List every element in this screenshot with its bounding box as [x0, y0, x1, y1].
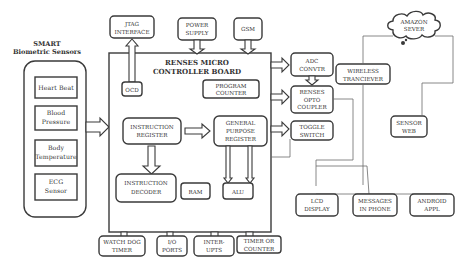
- arrow-right-icon: [271, 122, 289, 136]
- instruction-register-box: [123, 118, 181, 144]
- sensor-blood-pressure-label-2: Pressure: [42, 118, 71, 125]
- io-label-2: PORTS: [162, 247, 182, 253]
- arrow-right-icon: [271, 90, 289, 104]
- toggle-label-1: TOGGLE: [299, 124, 324, 130]
- sensor-body-temperature-label-2: Temperature: [35, 153, 77, 161]
- connector-line: [316, 166, 369, 194]
- alu-label: ALU: [231, 189, 244, 195]
- watchdog-label-1: WATCH DOG: [103, 239, 141, 245]
- instruction-decoder-label-1: INSTRUCTION: [124, 180, 167, 186]
- interrupts-label-2: UPTS: [206, 247, 222, 253]
- cloud-label-1: AMAZON: [399, 19, 427, 25]
- connector-line: [271, 139, 290, 157]
- wireless-label-2: TRANCIEVER: [343, 76, 384, 82]
- arrow-down-icon: [190, 40, 204, 54]
- cloud-tail-dot: [405, 39, 407, 41]
- arrow-right-icon: [86, 118, 109, 136]
- messages-label-1: MESSAGES: [358, 198, 392, 204]
- messages-label-2: IN PHONE: [359, 206, 390, 212]
- board-title-line1: RENSES MICRO: [165, 58, 229, 67]
- io-label-1: I/O: [168, 239, 177, 245]
- board-title-line2: CONTROLLER BOARD: [153, 67, 241, 76]
- interrupts-label-1: INTER-: [203, 239, 224, 245]
- cloud-label-2: SEVER: [404, 26, 425, 32]
- gpr-label-3: REGISTER: [225, 136, 257, 142]
- connector-line: [422, 36, 453, 116]
- sensors-title-line1: SMART: [33, 40, 61, 48]
- arrow-right-icon: [271, 58, 289, 72]
- toggle-label-2: SWITCH: [300, 132, 325, 138]
- sensor-blood-pressure-label-1: Blood: [47, 109, 65, 116]
- biometric-sensors-group: SMART Biometric Sensors Heart Beat Blood…: [13, 40, 86, 217]
- lcd-label-2: DISPLAY: [304, 206, 330, 212]
- sensor-ecg-label-1: ECG: [49, 178, 64, 185]
- watchdog-label-2: TIMER: [112, 247, 133, 253]
- ocd-label: OCD: [125, 87, 139, 93]
- opto-label-3: COUPLER: [297, 104, 327, 110]
- sensor-web-label-1: SENSOR: [396, 120, 422, 126]
- instruction-decoder-box: [116, 174, 176, 202]
- instruction-register-label-1: INSTRUCTION: [130, 124, 173, 130]
- gsm-label: GSM: [241, 26, 255, 32]
- power-label-2: SUPPLY: [185, 30, 208, 36]
- connector-line: [363, 36, 393, 64]
- amazon-server-cloud: AMAZON SEVER: [388, 11, 441, 45]
- sensor-body-temperature-label-1: Body: [48, 144, 65, 152]
- opto-label-1: RENSES: [300, 89, 325, 95]
- cloud-tail-dot: [401, 41, 405, 45]
- sensor-heart-beat-label: Heart Beat: [38, 84, 74, 91]
- program-counter-label-2: COUNTER: [216, 90, 247, 96]
- ram-label: RAM: [189, 189, 203, 195]
- android-label-1: ANDROID: [417, 198, 447, 204]
- instruction-register-label-2: REGISTER: [137, 132, 169, 138]
- lcd-label-1: LCD: [311, 198, 324, 204]
- power-label-1: POWER: [186, 22, 209, 28]
- sensor-ecg-label-2: Sensor: [45, 187, 67, 194]
- timer-label-2: COUNTER: [244, 246, 275, 252]
- block-diagram: SMART Biometric Sensors Heart Beat Blood…: [0, 0, 476, 269]
- sensors-title-line2: Biometric Sensors: [13, 48, 81, 56]
- sensor-web-label-2: WEB: [402, 128, 416, 134]
- gpr-label-2: PURPOSE: [226, 128, 255, 134]
- opto-label-2: OPTO: [304, 97, 321, 103]
- android-label-2: APPL: [423, 206, 440, 212]
- gpr-label-1: GENERAL: [226, 120, 256, 126]
- jtag-label-2: INTERFACE: [115, 29, 150, 35]
- adc-converter-box: [291, 53, 333, 76]
- timer-label-1: TIMER OR: [244, 238, 275, 244]
- arrow-down-icon: [306, 76, 318, 85]
- wireless-label-1: WIRELESS: [347, 68, 379, 74]
- arrow-down-icon: [241, 40, 255, 54]
- jtag-label-1: JTAG: [124, 21, 140, 28]
- adc-label-1: ADC: [305, 58, 319, 64]
- program-counter-label-1: PROGRAM: [215, 83, 246, 89]
- instruction-decoder-label-2: DECODER: [131, 189, 162, 195]
- adc-label-2: CONVTR: [299, 66, 326, 72]
